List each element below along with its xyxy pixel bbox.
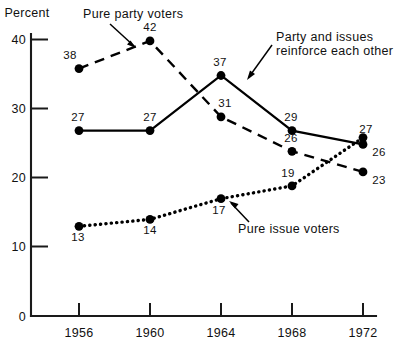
point-label-pure-issue-1968: 19 bbox=[281, 167, 294, 179]
x-tick-label-1960: 1960 bbox=[135, 326, 164, 340]
data-point-pure-party-1960 bbox=[146, 37, 155, 46]
axes-group bbox=[31, 34, 376, 316]
x-tick-label-1968: 1968 bbox=[277, 326, 306, 340]
point-label-pure-issue-1956: 13 bbox=[71, 231, 84, 243]
point-label-pure-issue-1964: 17 bbox=[212, 204, 225, 216]
data-point-pure-party-1968 bbox=[288, 147, 297, 156]
chart-canvas: Percent 40 30 20 10 0 1956 1960 1964 196… bbox=[0, 0, 396, 354]
data-point-pure-issue-1956 bbox=[75, 222, 84, 231]
series-line-party-and-issues bbox=[79, 76, 363, 145]
annotation-party-and-issues: Party and issues reinforce each other bbox=[247, 30, 393, 80]
data-point-pure-party-1956 bbox=[75, 64, 84, 73]
annotation-party-and-issues-line2: reinforce each other bbox=[276, 44, 393, 58]
line-chart-figure: Percent 40 30 20 10 0 1956 1960 1964 196… bbox=[0, 0, 396, 354]
point-label-pure-party-1972: 23 bbox=[372, 174, 385, 186]
point-label-pure-party-1968: 26 bbox=[284, 132, 297, 144]
point-label-pure-issue-1960: 14 bbox=[143, 224, 157, 236]
point-label-party-issues-1968: 29 bbox=[284, 111, 297, 123]
series-party-and-issues bbox=[75, 71, 368, 149]
annotation-pure-issue-voters-label: Pure issue voters bbox=[238, 222, 340, 236]
x-tick-label-1956: 1956 bbox=[64, 326, 93, 340]
y-tick-label-0: 0 bbox=[19, 310, 26, 324]
point-label-party-issues-1972: 27 bbox=[359, 123, 372, 135]
annotation-pure-party-voters-label: Pure party voters bbox=[83, 7, 183, 21]
annotation-party-and-issues-line1: Party and issues bbox=[276, 30, 373, 44]
data-point-pure-party-1964 bbox=[217, 112, 226, 121]
annotation-party-and-issues-leader bbox=[249, 45, 272, 77]
y-tick-label-40: 40 bbox=[11, 33, 26, 47]
series-pure-issue-voters bbox=[75, 133, 368, 231]
point-label-pure-party-1960: 42 bbox=[143, 21, 156, 33]
data-point-party-issues-1972 bbox=[359, 140, 368, 149]
data-point-pure-issue-1964 bbox=[217, 194, 226, 203]
data-point-party-issues-1964 bbox=[217, 71, 226, 80]
point-label-pure-issue-1972: 26 bbox=[372, 146, 385, 158]
data-point-party-issues-1956 bbox=[75, 126, 84, 135]
annotation-pure-issue-voters-arrow-icon bbox=[229, 201, 239, 209]
point-label-party-issues-1956: 27 bbox=[71, 111, 84, 123]
y-tick-label-20: 20 bbox=[11, 171, 26, 185]
annotation-pure-issue-voters: Pure issue voters bbox=[229, 201, 340, 236]
data-point-party-issues-1960 bbox=[146, 126, 155, 135]
annotation-party-and-issues-arrow-icon bbox=[247, 71, 255, 81]
point-label-party-issues-1960: 27 bbox=[143, 111, 156, 123]
data-point-pure-party-1972 bbox=[359, 168, 368, 177]
data-point-pure-issue-1960 bbox=[146, 215, 155, 224]
y-tick-label-30: 30 bbox=[11, 102, 26, 116]
point-label-party-issues-1964: 37 bbox=[213, 56, 226, 68]
point-label-pure-party-1964: 31 bbox=[218, 97, 231, 109]
data-point-pure-issue-1968 bbox=[288, 182, 297, 191]
x-tick-label-1972: 1972 bbox=[348, 326, 377, 340]
x-tick-label-1964: 1964 bbox=[206, 326, 235, 340]
annotation-pure-party-voters: Pure party voters bbox=[83, 7, 183, 48]
y-tick-label-10: 10 bbox=[11, 240, 26, 254]
point-label-pure-party-1956: 38 bbox=[63, 49, 76, 61]
y-axis-title: Percent bbox=[4, 6, 49, 20]
